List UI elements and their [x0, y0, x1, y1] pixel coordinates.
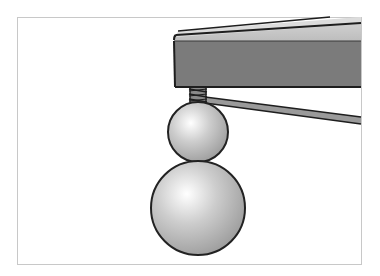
diagram-canvas: [0, 0, 380, 276]
lower-sphere: [151, 161, 245, 255]
diagram-svg: [0, 0, 380, 276]
upper-sphere: [168, 102, 228, 162]
table-front-face: [174, 41, 361, 87]
